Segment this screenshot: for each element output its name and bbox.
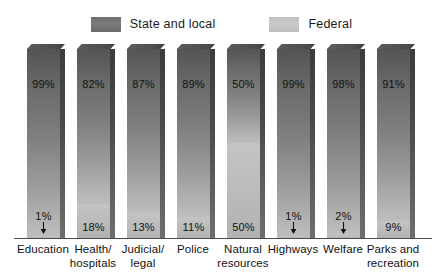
bar-column: 99%1% bbox=[277, 44, 315, 238]
bar-value-label-federal: 11% bbox=[177, 221, 210, 233]
bar-side-face bbox=[60, 49, 65, 238]
bar-segment-state-and-local bbox=[327, 49, 360, 234]
bar-column: 89%11% bbox=[177, 44, 215, 238]
bar-side-face bbox=[160, 49, 165, 238]
callout-arrow-down-icon bbox=[27, 222, 60, 234]
legend-item-federal: Federal bbox=[269, 17, 352, 32]
bar-column: 82%18% bbox=[77, 44, 115, 238]
bar-value-label-state-and-local: 91% bbox=[377, 78, 410, 90]
category-label-line: resources bbox=[212, 256, 274, 270]
bar-value-label-federal: 2% bbox=[327, 210, 360, 222]
stacked-bar-chart: State and local Federal 99%1%82%18%87%13… bbox=[0, 0, 443, 279]
bar-side-face bbox=[360, 49, 365, 238]
bar-value-label-state-and-local: 99% bbox=[27, 78, 60, 90]
baseline-axis bbox=[14, 238, 432, 239]
bar-value-label-federal: 9% bbox=[377, 221, 410, 233]
bar-segment-state-and-local bbox=[227, 49, 260, 143]
bar-value-label-state-and-local: 50% bbox=[227, 78, 260, 90]
bar-column: 87%13% bbox=[127, 44, 165, 238]
bar-side-face bbox=[310, 49, 315, 238]
bar-segment-state-and-local bbox=[177, 49, 210, 217]
bar-column: 98%2% bbox=[327, 44, 365, 238]
category-label-line: Parks and bbox=[362, 242, 424, 256]
callout-arrow-down-icon bbox=[327, 222, 360, 234]
legend-swatch-state-and-local bbox=[91, 17, 121, 32]
bar-value-label-federal: 18% bbox=[77, 221, 110, 233]
bar-column: 99%1% bbox=[27, 44, 65, 238]
legend-swatch-federal bbox=[269, 17, 299, 32]
bar-value-label-state-and-local: 98% bbox=[327, 78, 360, 90]
bar-value-label-state-and-local: 99% bbox=[277, 78, 310, 90]
bar-side-face bbox=[260, 49, 265, 238]
bar-segment-state-and-local bbox=[377, 49, 410, 221]
bar-segment-state-and-local bbox=[127, 49, 160, 213]
category-label: Parks andrecreation bbox=[362, 242, 424, 270]
bar-side-face bbox=[410, 49, 415, 238]
bar-value-label-state-and-local: 89% bbox=[177, 78, 210, 90]
legend-item-state-and-local: State and local bbox=[91, 17, 216, 32]
category-axis-labels: EducationHealth/hospitalsJudicial/legalP… bbox=[0, 242, 443, 279]
bar-segment-state-and-local bbox=[77, 49, 110, 204]
bar-value-label-federal: 50% bbox=[227, 221, 260, 233]
callout-arrow-down-icon bbox=[277, 222, 310, 234]
bar-value-label-state-and-local: 82% bbox=[77, 78, 110, 90]
bar-value-label-federal: 1% bbox=[27, 210, 60, 222]
plot-area: 99%1%82%18%87%13%89%11%50%50%99%1%98%2%9… bbox=[0, 44, 443, 238]
category-label-line: recreation bbox=[362, 256, 424, 270]
legend-label-federal: Federal bbox=[308, 17, 352, 31]
legend-label-state-and-local: State and local bbox=[130, 17, 216, 31]
bar-side-face bbox=[110, 49, 115, 238]
category-label-line: legal bbox=[112, 256, 174, 270]
bar-column: 91%9% bbox=[377, 44, 415, 238]
bar-side-face bbox=[210, 49, 215, 238]
bar-value-label-federal: 13% bbox=[127, 221, 160, 233]
bar-value-label-state-and-local: 87% bbox=[127, 78, 160, 90]
bar-value-label-federal: 1% bbox=[277, 210, 310, 222]
bar-column: 50%50% bbox=[227, 44, 265, 238]
chart-legend: State and local Federal bbox=[0, 13, 443, 35]
